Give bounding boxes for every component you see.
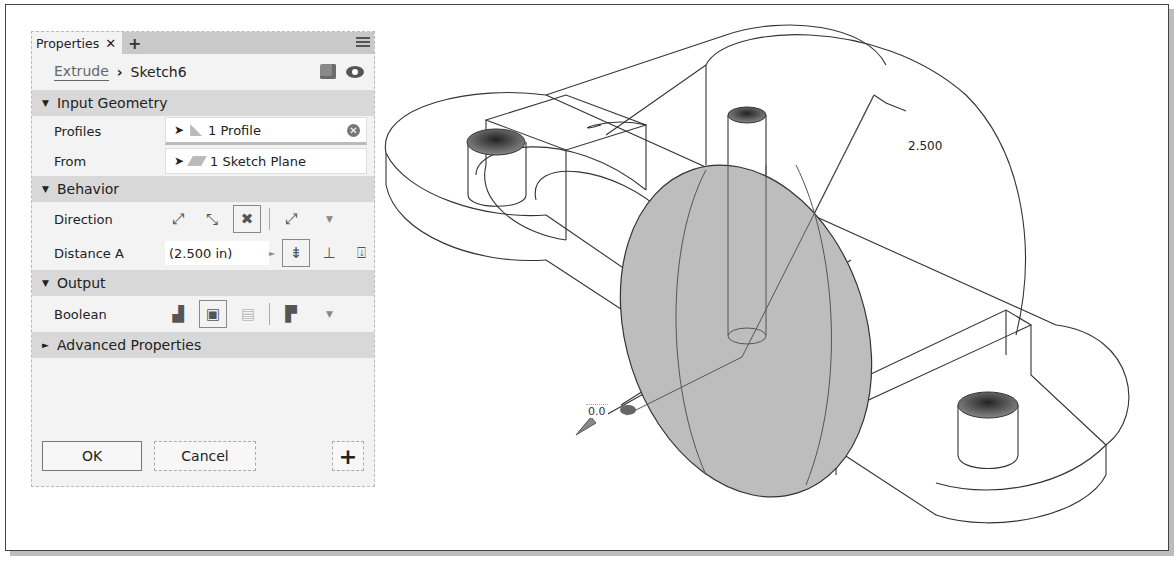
breadcrumb-separator: › (117, 64, 123, 80)
direction-default-icon[interactable]: ⤢ (165, 206, 191, 232)
boolean-dropdown-icon[interactable]: ▼ (326, 309, 333, 319)
panel-tab-bar: Properties ✕ + (32, 32, 374, 54)
section-title: Output (57, 275, 106, 291)
section-title: Input Geometry (57, 95, 168, 111)
preview-cube-icon[interactable] (320, 64, 336, 79)
through-all-icon[interactable]: ⍗ (348, 240, 374, 266)
direction-row: Direction ⤢ ⤡ ✖ ⤢ ▼ (32, 202, 374, 236)
intersect-icon[interactable]: ▤ (235, 301, 261, 327)
breadcrumb: Extrude › Sketch6 (32, 54, 374, 90)
profiles-selector[interactable]: ➤ 1 Profile ✕ (165, 117, 367, 145)
apply-add-button[interactable]: + (332, 441, 364, 471)
expand-triangle-icon: ▼ (42, 98, 49, 108)
divider (269, 303, 270, 325)
tab-properties-label: Properties (36, 36, 99, 51)
collapse-triangle-icon: ► (42, 340, 49, 350)
profiles-value: 1 Profile (208, 123, 261, 138)
dimension-label[interactable]: 2.500 (908, 139, 942, 153)
ok-button[interactable]: OK (42, 441, 142, 471)
from-label: From (32, 154, 154, 169)
expand-triangle-icon: ▼ (42, 184, 49, 194)
hamburger-menu-icon[interactable] (356, 35, 370, 49)
direction-label: Direction (32, 212, 154, 227)
distance-a-row: Distance A (2.500 in) ► ⇟ ⊥ ⍗ (32, 236, 374, 270)
direction-flipped-icon[interactable]: ⤡ (199, 206, 225, 232)
section-output[interactable]: ▼ Output (32, 270, 374, 296)
direction-symmetric-icon[interactable]: ✖ (233, 205, 261, 233)
clear-selection-icon[interactable]: ✕ (347, 124, 360, 137)
expand-triangle-icon: ▼ (42, 278, 49, 288)
new-solid-icon[interactable]: ▛ (278, 301, 304, 327)
breadcrumb-extrude[interactable]: Extrude (54, 63, 109, 81)
select-arrow-icon: ➤ (174, 154, 184, 168)
boolean-row: Boolean ▟ ▣ ▤ ▛ ▼ (32, 296, 374, 332)
dialog-buttons: OK Cancel + (40, 441, 366, 475)
section-title: Advanced Properties (57, 337, 201, 353)
divider (269, 208, 270, 230)
direction-dropdown-icon[interactable]: ▼ (326, 214, 333, 224)
select-arrow-icon: ➤ (174, 123, 184, 137)
cut-icon[interactable]: ▣ (199, 300, 227, 328)
close-icon[interactable]: ✕ (105, 36, 116, 51)
join-icon[interactable]: ▟ (165, 301, 191, 327)
breadcrumb-sketch[interactable]: Sketch6 (131, 64, 187, 80)
profiles-row: Profiles ➤ 1 Profile ✕ (32, 116, 374, 146)
distance-icon[interactable]: ⇟ (282, 239, 310, 267)
distance-a-input[interactable]: (2.500 in) (165, 241, 269, 265)
from-row: From ➤ 1 Sketch Plane (32, 146, 374, 176)
properties-panel: Properties ✕ + Extrude › Sketch6 ▼ Input… (31, 31, 375, 487)
manipulator-value-label[interactable]: 0.0 (586, 404, 608, 418)
sketch-plane-icon (187, 156, 207, 166)
tab-properties[interactable]: Properties ✕ (32, 32, 122, 54)
distance-a-label: Distance A (32, 246, 154, 261)
section-input-geometry[interactable]: ▼ Input Geometry (32, 90, 374, 116)
direction-asymmetric-icon[interactable]: ⤢ (278, 206, 304, 232)
add-tab-icon[interactable]: + (128, 34, 141, 53)
section-title: Behavior (57, 181, 119, 197)
distance-a-menu-arrow[interactable]: ► (269, 249, 275, 258)
boolean-label: Boolean (32, 307, 154, 322)
cancel-button[interactable]: Cancel (154, 441, 256, 471)
profiles-label: Profiles (32, 124, 154, 139)
from-value: 1 Sketch Plane (210, 154, 306, 169)
eye-icon[interactable] (346, 66, 364, 78)
to-icon[interactable]: ⊥ (316, 240, 342, 266)
section-advanced-properties[interactable]: ► Advanced Properties (32, 332, 374, 358)
from-selector[interactable]: ➤ 1 Sketch Plane (165, 148, 367, 174)
profile-shape-icon (190, 124, 202, 136)
section-behavior[interactable]: ▼ Behavior (32, 176, 374, 202)
